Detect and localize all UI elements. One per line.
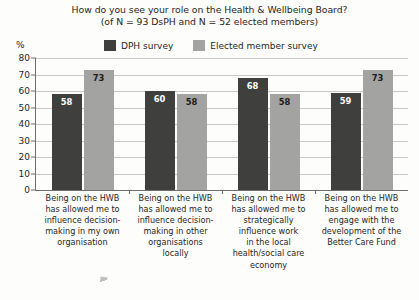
- category-label-2: Being on the HWBhas allowed me toinfluen…: [129, 193, 222, 260]
- y-tick-40: [31, 124, 36, 125]
- bar-2-dph-survey[interactable]: 60: [145, 91, 175, 190]
- category-label-line: economy: [222, 260, 315, 271]
- category-label-line: Being on the HWB: [315, 193, 408, 204]
- category-label-line: strategically: [222, 215, 315, 226]
- scan-artifact: [99, 277, 107, 287]
- bar-group-4: 5973: [315, 58, 408, 190]
- y-tick-30: [31, 140, 36, 141]
- bar-group-3: 6858: [222, 58, 315, 190]
- chart-legend: DPH survey Elected member survey: [104, 40, 318, 51]
- y-tick-60: [31, 91, 36, 92]
- y-tick-20: [31, 157, 36, 158]
- category-separator-tick: [222, 190, 223, 194]
- bar-3-dph-survey[interactable]: 68: [238, 78, 268, 190]
- chart-title-line-2: (of N = 93 DsPH and N = 52 elected membe…: [0, 16, 419, 28]
- category-label-line: Better Care Fund: [315, 237, 408, 248]
- bar-1-dph-survey[interactable]: 58: [52, 94, 82, 190]
- legend-swatch-dph-survey: [104, 40, 116, 51]
- bar-2-elected-member-survey[interactable]: 58: [177, 94, 207, 190]
- category-label-line: influence decision-: [129, 215, 222, 226]
- y-tick-label-30: 30: [19, 136, 30, 146]
- y-tick-label-0: 0: [24, 185, 30, 195]
- bars-layer: 5873605868585973: [36, 58, 408, 190]
- bar-value-label: 60: [154, 94, 165, 104]
- y-tick-label-10: 10: [19, 169, 30, 179]
- y-tick-70: [31, 74, 36, 75]
- category-label-line: in the local: [222, 237, 315, 248]
- category-label-line: influence decision-: [36, 215, 129, 226]
- chart-title-line-1: How do you see your role on the Health &…: [0, 4, 419, 16]
- legend-label-dph-survey: DPH survey: [121, 41, 173, 51]
- category-label-3: Being on the HWBhas allowed me tostrateg…: [222, 193, 315, 271]
- bar-4-elected-member-survey[interactable]: 73: [363, 70, 393, 190]
- category-label-line: has allowed me to: [222, 204, 315, 215]
- category-label-line: has allowed me to: [36, 204, 129, 215]
- bar-value-label: 58: [279, 97, 290, 107]
- bar-3-elected-member-survey[interactable]: 58: [270, 94, 300, 190]
- category-label-line: has allowed me to: [315, 204, 408, 215]
- y-tick-label-80: 80: [19, 53, 30, 63]
- y-tick-10: [31, 173, 36, 174]
- bar-value-label: 59: [340, 96, 351, 106]
- y-axis-unit-label: %: [16, 40, 25, 50]
- category-label-line: influence work: [222, 226, 315, 237]
- category-label-line: making in other: [129, 226, 222, 237]
- legend-label-elected-member-survey: Elected member survey: [210, 41, 317, 51]
- bar-group-1: 5873: [36, 58, 129, 190]
- y-tick-50: [31, 107, 36, 108]
- legend-item-dph-survey: DPH survey: [104, 40, 173, 51]
- x-axis-category-labels: Being on the HWBhas allowed me toinfluen…: [36, 193, 408, 293]
- category-label-4: Being on the HWBhas allowed me toengage …: [315, 193, 408, 248]
- y-tick-0: [31, 190, 36, 191]
- y-tick-label-40: 40: [19, 119, 30, 129]
- category-label-line: making in my own: [36, 226, 129, 237]
- bar-value-label: 58: [61, 97, 72, 107]
- category-label-line: health/social care: [222, 248, 315, 259]
- category-label-line: has allowed me to: [129, 204, 222, 215]
- bar-group-2: 6058: [129, 58, 222, 190]
- category-label-1: Being on the HWBhas allowed me toinfluen…: [36, 193, 129, 248]
- y-tick-label-50: 50: [19, 103, 30, 113]
- chart-container: How do you see your role on the Health &…: [0, 0, 419, 300]
- legend-item-elected-member-survey: Elected member survey: [193, 40, 317, 51]
- bar-value-label: 58: [186, 97, 197, 107]
- category-label-line: Being on the HWB: [129, 193, 222, 204]
- bar-1-elected-member-survey[interactable]: 73: [84, 70, 114, 190]
- category-separator-tick: [315, 190, 316, 194]
- y-tick-80: [31, 58, 36, 59]
- bar-4-dph-survey[interactable]: 59: [331, 93, 361, 190]
- bar-value-label: 73: [93, 73, 104, 83]
- category-label-line: engage with the: [315, 215, 408, 226]
- bar-value-label: 68: [247, 81, 258, 91]
- bar-value-label: 73: [372, 73, 383, 83]
- category-label-line: Being on the HWB: [36, 193, 129, 204]
- category-label-line: organisation: [36, 237, 129, 248]
- y-tick-label-70: 70: [19, 70, 30, 80]
- legend-swatch-elected-member-survey: [193, 40, 205, 51]
- plot-area: 5873605868585973: [36, 58, 408, 190]
- chart-title: How do you see your role on the Health &…: [0, 4, 419, 28]
- y-tick-label-60: 60: [19, 86, 30, 96]
- category-label-line: Being on the HWB: [222, 193, 315, 204]
- y-tick-label-20: 20: [19, 152, 30, 162]
- category-label-line: organisations: [129, 237, 222, 248]
- category-label-line: locally: [129, 248, 222, 259]
- category-label-line: development of the: [315, 226, 408, 237]
- category-separator-tick: [129, 190, 130, 194]
